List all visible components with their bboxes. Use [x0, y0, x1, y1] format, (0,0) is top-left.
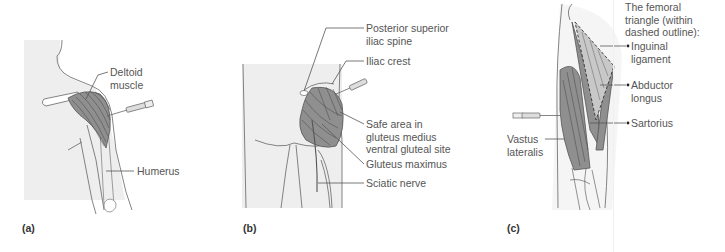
injection-sites-figure: Deltoid muscle Humerus (a) Posterior sup…	[0, 0, 725, 252]
label-vastus-lateralis: Vastus lateralis	[507, 133, 543, 158]
label-humerus: Humerus	[137, 165, 180, 178]
label-safe-area-gluteus-medius: Safe area in gluteus medius ventral glut…	[366, 118, 451, 156]
panel-letter-a: (a)	[22, 222, 35, 234]
label-gluteus-maximus: Gluteus maximus	[366, 158, 447, 171]
label-abductor-longus: Abductor longus	[631, 79, 673, 104]
label-sartorius: Sartorius	[631, 117, 673, 130]
panel-letter-c: (c)	[507, 222, 520, 234]
panel-letter-b: (b)	[243, 222, 256, 234]
label-iliac-crest: Iliac crest	[366, 55, 410, 68]
column-divider	[613, 0, 614, 252]
syringe-icon	[107, 100, 154, 116]
label-deltoid-muscle: Deltoid muscle	[110, 66, 143, 91]
label-sciatic-nerve: Sciatic nerve	[366, 177, 426, 190]
label-femoral-triangle-title: The femoral triangle (within dashed outl…	[625, 1, 700, 39]
syringe-icon	[513, 113, 560, 118]
label-posterior-superior-iliac-spine: Posterior superior iliac spine	[366, 22, 449, 47]
deltoid-illustration	[0, 0, 725, 252]
label-inguinal-ligament: Inguinal ligament	[631, 40, 671, 65]
